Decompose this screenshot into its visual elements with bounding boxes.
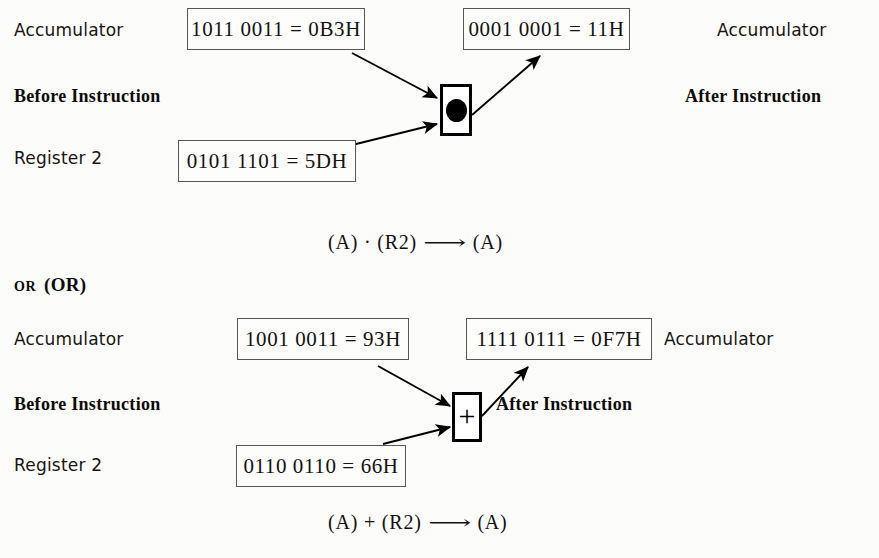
and-accumulator-before-box: 1011 0011 = 0B3H — [187, 8, 365, 50]
arrow-acc-to-or-op — [378, 366, 450, 406]
or-register-before-box: 0110 0110 = 66H — [236, 445, 406, 487]
or-accumulator-before-box: 1001 0011 = 93H — [237, 318, 409, 360]
and-accumulator-before-value: 1011 0011 = 0B3H — [191, 17, 361, 42]
or-formula-arrow-icon: ⟶ — [428, 510, 468, 534]
and-before-instruction-label: Before Instruction — [14, 86, 161, 107]
and-accumulator-after-label: Accumulator — [717, 20, 827, 40]
and-formula-right: (A) — [473, 231, 503, 254]
or-accumulator-after-value: 1111 0111 = 0F7H — [476, 327, 641, 352]
or-accumulator-after-box: 1111 0111 = 0F7H — [466, 318, 652, 360]
and-accumulator-after-box: 0001 0001 = 11H — [463, 8, 630, 50]
arrow-reg-to-and-op — [352, 124, 437, 145]
and-after-instruction-label: After Instruction — [685, 86, 821, 107]
arrow-reg-to-or-op — [383, 427, 450, 444]
or-after-instruction-label: After Instruction — [496, 394, 632, 415]
or-heading-mnemonic: OR — [14, 279, 36, 295]
or-before-instruction-label: Before Instruction — [14, 394, 161, 415]
or-accumulator-before-value: 1001 0011 = 93H — [245, 327, 401, 352]
or-register-before-value: 0110 0110 = 66H — [243, 454, 398, 479]
or-operator-box: + — [452, 392, 482, 442]
figure-page: Accumulator 1011 0011 = 0B3H 0001 0001 =… — [0, 0, 879, 558]
and-formula: (A) · (R2) ⟶ (A) — [328, 230, 503, 254]
and-register-before-box: 0101 1101 = 5DH — [178, 140, 356, 182]
and-accumulator-before-label: Accumulator — [14, 20, 124, 40]
or-register-before-label: Register 2 — [14, 455, 102, 475]
and-accumulator-after-value: 0001 0001 = 11H — [469, 17, 625, 42]
or-heading-operation: (OR) — [44, 274, 86, 296]
and-dot-icon — [446, 99, 467, 122]
arrow-and-op-to-acc — [472, 56, 540, 115]
or-formula: (A) + (R2) ⟶ (A) — [328, 510, 508, 534]
and-formula-left: (A) · (R2) — [328, 231, 417, 254]
or-section-heading: OR (OR) — [14, 274, 86, 296]
or-accumulator-before-label: Accumulator — [14, 329, 124, 349]
and-operator-box — [440, 84, 472, 136]
and-register-before-value: 0101 1101 = 5DH — [187, 149, 348, 174]
or-accumulator-after-label: Accumulator — [664, 329, 774, 349]
and-formula-arrow-icon: ⟶ — [423, 230, 463, 254]
or-plus-icon: + — [459, 401, 476, 431]
or-formula-left: (A) + (R2) — [328, 511, 422, 534]
or-formula-right: (A) — [477, 511, 507, 534]
arrow-acc-to-and-op — [352, 53, 437, 98]
and-register-before-label: Register 2 — [14, 148, 102, 168]
